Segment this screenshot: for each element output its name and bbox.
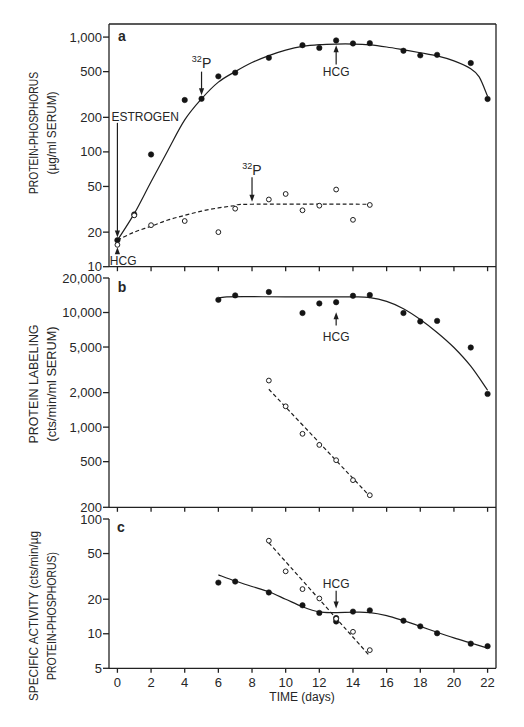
open-data-point xyxy=(283,404,288,409)
panel-letter: c xyxy=(117,519,125,535)
open-data-point xyxy=(317,203,322,208)
filled-data-point xyxy=(266,289,271,294)
open-data-point xyxy=(115,242,120,247)
filled-data-point xyxy=(216,580,221,585)
annotation-superscript: 32 xyxy=(192,54,202,64)
filled-data-point xyxy=(317,301,322,306)
y-tick-label: 1,000 xyxy=(69,420,102,435)
y-axis-title-line: PROTEIN-PHOSPHORUS xyxy=(27,72,41,194)
filled-data-point xyxy=(434,318,439,323)
x-tick-label: 20 xyxy=(447,675,461,690)
annotation-label: HCG xyxy=(323,330,350,344)
filled-data-point xyxy=(300,603,305,608)
y-tick-label: 50 xyxy=(88,179,102,194)
y-tick-label: 20,000 xyxy=(62,271,102,286)
y-tick-label: 200 xyxy=(80,110,102,125)
filled-data-point xyxy=(333,38,338,43)
open-data-point xyxy=(334,616,339,621)
filled-data-point xyxy=(418,53,423,58)
y-axis-title-line: SPECIFIC ACTIVITY (cts/min/µg xyxy=(27,531,41,701)
open-data-point xyxy=(367,493,372,498)
filled-data-point xyxy=(182,97,187,102)
open-data-point xyxy=(266,538,271,543)
open-data-point xyxy=(300,208,305,213)
y-tick-label: 1,000 xyxy=(69,30,102,45)
panel-letter: a xyxy=(118,28,126,44)
open-data-point xyxy=(300,431,305,436)
open-data-point xyxy=(132,213,137,218)
filled-data-point xyxy=(418,319,423,324)
x-tick-label: 16 xyxy=(379,675,393,690)
open-data-point xyxy=(182,219,187,224)
open-data-point xyxy=(233,206,238,211)
filled-data-point xyxy=(317,610,322,615)
filled-data-point xyxy=(350,41,355,46)
annotation-superscript: 32 xyxy=(242,161,252,171)
x-tick-label: 10 xyxy=(278,675,292,690)
y-tick-label: 500 xyxy=(80,64,102,79)
x-axis-label: TIME (days) xyxy=(269,690,334,704)
open-data-point xyxy=(149,223,154,228)
y-axis-title-line: PROTEIN LABELING xyxy=(27,325,41,444)
open-data-point xyxy=(216,230,221,235)
filled-data-point xyxy=(148,152,153,157)
open-data-point xyxy=(351,478,356,483)
x-tick-label: 0 xyxy=(114,675,121,690)
filled-data-point xyxy=(434,631,439,636)
figure: 1020501002005001,000aPROTEIN-PHOSPHORUS(… xyxy=(0,0,524,727)
filled-data-point xyxy=(350,609,355,614)
x-tick-label: 8 xyxy=(248,675,255,690)
open-data-point xyxy=(334,187,339,192)
annotation-label: ESTROGEN xyxy=(112,110,179,124)
filled-data-point xyxy=(367,292,372,297)
y-axis-title-line: (µg/ml SERUM) xyxy=(45,92,59,175)
filled-data-point xyxy=(232,293,237,298)
open-data-point xyxy=(351,629,356,634)
filled-data-point xyxy=(434,52,439,57)
filled-data-point xyxy=(468,60,473,65)
y-tick-label: 2,000 xyxy=(69,385,102,400)
annotation-label: HCG xyxy=(323,577,350,591)
filled-data-point xyxy=(300,310,305,315)
filled-data-point xyxy=(266,55,271,60)
filled-data-point xyxy=(401,310,406,315)
open-data-point xyxy=(283,569,288,574)
open-data-point xyxy=(367,203,372,208)
filled-data-point xyxy=(468,345,473,350)
y-tick-label: 100 xyxy=(80,144,102,159)
open-data-point xyxy=(317,596,322,601)
x-tick-label: 6 xyxy=(215,675,222,690)
y-tick-label: 100 xyxy=(80,512,102,527)
filled-data-point xyxy=(232,579,237,584)
y-tick-label: 20 xyxy=(88,225,102,240)
y-tick-label: 10,000 xyxy=(62,305,102,320)
filled-data-point xyxy=(199,96,204,101)
x-tick-label: 2 xyxy=(147,675,154,690)
filled-data-point xyxy=(266,590,271,595)
open-data-point xyxy=(334,458,339,463)
filled-data-point xyxy=(216,297,221,302)
x-tick-label: 4 xyxy=(181,675,188,690)
open-data-point xyxy=(300,587,305,592)
open-data-point xyxy=(266,197,271,202)
filled-data-point xyxy=(367,40,372,45)
open-data-point xyxy=(266,378,271,383)
y-tick-label: 500 xyxy=(80,454,102,469)
filled-data-point xyxy=(485,96,490,101)
x-tick-label: 12 xyxy=(312,675,326,690)
filled-data-point xyxy=(232,70,237,75)
filled-data-point xyxy=(485,643,490,648)
y-tick-label: 5,000 xyxy=(69,340,102,355)
filled-data-point xyxy=(350,293,355,298)
filled-data-point xyxy=(216,74,221,79)
filled-data-point xyxy=(333,300,338,305)
open-data-point xyxy=(283,192,288,197)
filled-data-point xyxy=(468,641,473,646)
open-data-point xyxy=(367,648,372,653)
y-axis-title-line: (cts/min/ml SERUM) xyxy=(45,327,59,442)
filled-data-point xyxy=(418,624,423,629)
y-tick-label: 10 xyxy=(88,626,102,641)
annotation-label: HCG xyxy=(323,65,350,79)
filled-data-point xyxy=(401,48,406,53)
annotation-text: P xyxy=(252,162,261,178)
